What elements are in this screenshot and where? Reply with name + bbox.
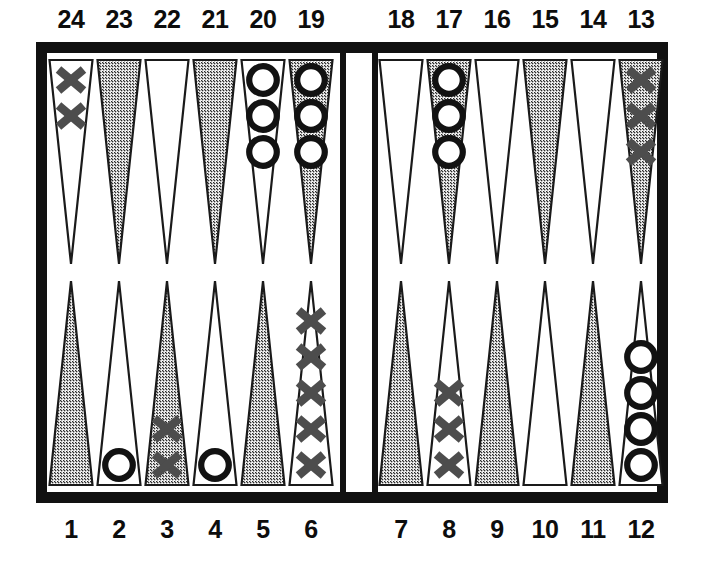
- point-10[interactable]: [522, 280, 568, 486]
- checker-o[interactable]: [294, 135, 328, 169]
- point-number-label-3: 3: [144, 512, 190, 546]
- checker-x[interactable]: [432, 412, 466, 446]
- point-number-label-7: 7: [378, 512, 424, 546]
- bar-rail-left: [340, 53, 346, 492]
- point-number-label-23: 23: [96, 2, 142, 36]
- point-14[interactable]: [570, 59, 616, 265]
- point-number-label-15: 15: [522, 2, 568, 36]
- point-number-label-1: 1: [48, 512, 94, 546]
- bar-area[interactable]: [346, 53, 372, 492]
- board-frame: [36, 42, 668, 503]
- point-number-label-16: 16: [474, 2, 520, 36]
- checker-o[interactable]: [432, 135, 466, 169]
- checker-x[interactable]: [432, 376, 466, 410]
- point-number-label-20: 20: [240, 2, 286, 36]
- checker-x[interactable]: [624, 63, 658, 97]
- top-point-labels: 242322212019181716151413: [0, 2, 704, 42]
- backgammon-board-figure: 242322212019181716151413 123456789101112: [0, 0, 704, 566]
- point-number-label-19: 19: [288, 2, 334, 36]
- point-number-label-17: 17: [426, 2, 472, 36]
- point-2[interactable]: [96, 280, 142, 486]
- point-12[interactable]: [618, 280, 664, 486]
- checker-x[interactable]: [54, 63, 88, 97]
- checker-x[interactable]: [624, 135, 658, 169]
- checker-o[interactable]: [624, 412, 658, 446]
- point-21[interactable]: [192, 59, 238, 265]
- bottom-point-labels: 123456789101112: [0, 512, 704, 552]
- point-number-label-13: 13: [618, 2, 664, 36]
- checker-x[interactable]: [294, 376, 328, 410]
- checker-o[interactable]: [432, 63, 466, 97]
- checker-x[interactable]: [150, 412, 184, 446]
- checker-o[interactable]: [294, 99, 328, 133]
- checker-o[interactable]: [432, 99, 466, 133]
- checker-o[interactable]: [102, 448, 136, 482]
- point-number-label-11: 11: [570, 512, 616, 546]
- point-22[interactable]: [144, 59, 190, 265]
- point-4[interactable]: [192, 280, 238, 486]
- checker-o[interactable]: [624, 448, 658, 482]
- checker-x[interactable]: [294, 304, 328, 338]
- point-number-label-5: 5: [240, 512, 286, 546]
- checker-x[interactable]: [624, 99, 658, 133]
- point-17[interactable]: [426, 59, 472, 265]
- checker-o[interactable]: [246, 99, 280, 133]
- checker-x[interactable]: [294, 340, 328, 374]
- point-5[interactable]: [240, 280, 286, 486]
- checker-o[interactable]: [294, 63, 328, 97]
- point-number-label-21: 21: [192, 2, 238, 36]
- bar-rail-right: [372, 53, 378, 492]
- point-7[interactable]: [378, 280, 424, 486]
- board-surface: [47, 53, 657, 492]
- point-8[interactable]: [426, 280, 472, 486]
- point-23[interactable]: [96, 59, 142, 265]
- quadrant-bottom-left: [47, 273, 340, 492]
- point-24[interactable]: [48, 59, 94, 265]
- checker-o[interactable]: [246, 63, 280, 97]
- point-13[interactable]: [618, 59, 664, 265]
- point-number-label-2: 2: [96, 512, 142, 546]
- checker-x[interactable]: [54, 99, 88, 133]
- checker-x[interactable]: [294, 448, 328, 482]
- point-1[interactable]: [48, 280, 94, 486]
- checker-o[interactable]: [246, 135, 280, 169]
- point-3[interactable]: [144, 280, 190, 486]
- point-number-label-8: 8: [426, 512, 472, 546]
- quadrant-top-left: [47, 53, 340, 272]
- point-number-label-4: 4: [192, 512, 238, 546]
- checker-o[interactable]: [624, 340, 658, 374]
- point-19[interactable]: [288, 59, 334, 265]
- point-18[interactable]: [378, 59, 424, 265]
- point-11[interactable]: [570, 280, 616, 486]
- point-16[interactable]: [474, 59, 520, 265]
- point-number-label-12: 12: [618, 512, 664, 546]
- point-6[interactable]: [288, 280, 334, 486]
- point-number-label-14: 14: [570, 2, 616, 36]
- point-20[interactable]: [240, 59, 286, 265]
- point-number-label-9: 9: [474, 512, 520, 546]
- point-number-label-10: 10: [522, 512, 568, 546]
- point-number-label-6: 6: [288, 512, 334, 546]
- point-number-label-18: 18: [378, 2, 424, 36]
- point-9[interactable]: [474, 280, 520, 486]
- point-number-label-24: 24: [48, 2, 94, 36]
- quadrant-top-right: [378, 53, 657, 272]
- checker-o[interactable]: [198, 448, 232, 482]
- quadrant-bottom-right: [378, 273, 657, 492]
- checker-o[interactable]: [624, 376, 658, 410]
- point-number-label-22: 22: [144, 2, 190, 36]
- checker-x[interactable]: [150, 448, 184, 482]
- checker-x[interactable]: [294, 412, 328, 446]
- point-15[interactable]: [522, 59, 568, 265]
- checker-x[interactable]: [432, 448, 466, 482]
